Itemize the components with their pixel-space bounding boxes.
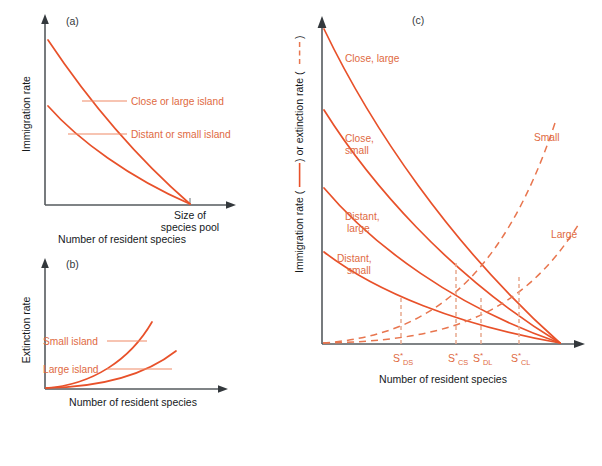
- panel-c-y-axis-label-part1: Immigration rate (: [293, 190, 305, 273]
- panel-c-label-close-large: Close, large: [345, 53, 400, 64]
- panel-c-label-distant-large-2: large: [347, 223, 370, 234]
- panel-c-y-axis-arrow: [318, 16, 327, 28]
- panel-c-label-extinction-small: Small: [534, 132, 559, 143]
- panel-a: (a) Immigration rate Close or large isla…: [20, 14, 236, 245]
- panel-a-tag: (a): [66, 15, 79, 27]
- panel-c: (c) Immigration rate ( ) or extinction r…: [293, 14, 585, 385]
- panel-b-x-axis-arrow: [218, 385, 228, 393]
- eq-subscript-cs: CS: [458, 358, 468, 367]
- panel-b-tag: (b): [66, 258, 79, 270]
- panel-a-label-distant-small: Distant or small island: [131, 129, 231, 140]
- panel-b-y-axis-arrow: [41, 258, 49, 268]
- panel-c-label-distant-small-1: Distant,: [337, 253, 372, 264]
- panel-b: (b) Extinction rate Small island Large i…: [20, 258, 228, 408]
- panel-c-label-extinction-large: Large: [551, 229, 577, 240]
- panel-b-label-large-island: Large island: [43, 364, 99, 375]
- panel-a-x-axis-label: Number of resident species: [58, 233, 186, 245]
- eq-symbol-dl: S: [473, 352, 480, 364]
- panel-b-x-axis-label: Number of resident species: [69, 396, 197, 408]
- panel-a-y-axis-label: Immigration rate: [20, 76, 32, 152]
- panel-a-curve-close-large: [48, 40, 190, 204]
- eq-subscript-dl: DL: [483, 358, 492, 367]
- panel-c-label-close-small-1: Close,: [345, 133, 374, 144]
- panel-c-y-axis-label-group: Immigration rate ( ) or extinction rate …: [293, 36, 305, 274]
- panel-b-label-small-island: Small island: [43, 336, 98, 347]
- eq-subscript-cl: CL: [521, 358, 530, 367]
- panel-c-tag: (c): [412, 14, 424, 26]
- panel-b-y-axis-label: Extinction rate: [20, 297, 32, 364]
- panel-c-equilibrium-label-dl: S * DL: [473, 351, 492, 367]
- panel-a-y-axis-arrow: [41, 14, 49, 24]
- panel-c-label-close-small-2: small: [345, 145, 369, 156]
- panel-c-y-axis-label-part3: ): [293, 36, 305, 40]
- panel-c-y-axis-label-part2: ) or extinction rate (: [293, 71, 305, 162]
- panel-c-x-axis-label: Number of resident species: [379, 373, 507, 385]
- panel-c-x-axis-arrow: [574, 340, 585, 348]
- panel-a-x-axis-arrow: [226, 201, 236, 209]
- panel-c-equilibrium-label-cl: S * CL: [511, 351, 530, 367]
- panel-c-equilibrium-label-cs: S * CS: [448, 351, 468, 367]
- panel-a-xtick-label-line1: Size of: [174, 209, 206, 221]
- panel-c-curve-close-large: [324, 29, 560, 343]
- panel-a-label-close-large: Close or large island: [131, 96, 224, 107]
- eq-symbol-cl: S: [511, 352, 518, 364]
- eq-symbol-cs: S: [448, 352, 455, 364]
- eq-subscript-ds: DS: [403, 358, 413, 367]
- panel-c-label-distant-small-2: small: [347, 265, 371, 276]
- panel-c-equilibrium-label-ds: S * DS: [393, 351, 413, 367]
- panel-b-curve-small-island: [46, 322, 152, 388]
- panel-a-xtick-label-line2: species pool: [161, 221, 219, 233]
- panel-c-label-distant-large-1: Distant,: [345, 211, 380, 222]
- island-biogeography-figure: (a) Immigration rate Close or large isla…: [0, 0, 602, 466]
- panel-a-curve-distant-small: [48, 106, 190, 204]
- eq-symbol-ds: S: [393, 352, 400, 364]
